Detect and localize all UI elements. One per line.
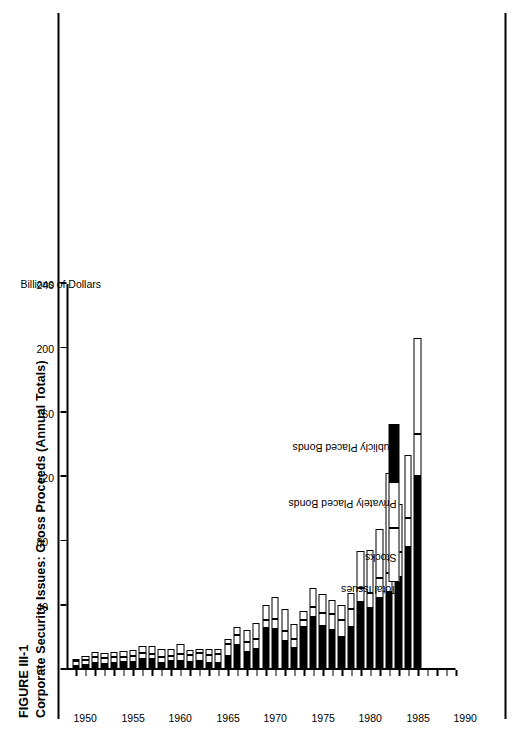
legend-label-public: Publicly Placed Bonds bbox=[292, 442, 396, 454]
chart-legend: Total Issues Stocks Privately Placed Bon… bbox=[300, 322, 450, 582]
year-tick bbox=[370, 670, 372, 676]
bar-row bbox=[252, 623, 259, 669]
bar-segment-private bbox=[214, 654, 221, 663]
bar-segment-stocks bbox=[148, 647, 155, 654]
year-tick bbox=[189, 670, 191, 676]
bar-segment-stocks bbox=[100, 653, 107, 658]
year-tick bbox=[256, 670, 258, 676]
bar-row bbox=[224, 639, 231, 669]
year-tick bbox=[75, 670, 77, 676]
bar-segment-stocks bbox=[110, 652, 117, 657]
bar-segment-public bbox=[195, 661, 202, 669]
bar-segment-stocks bbox=[129, 650, 136, 656]
value-tick bbox=[60, 669, 66, 671]
value-tick-label: 200 bbox=[36, 343, 54, 355]
bar-segment-stocks bbox=[186, 650, 193, 655]
bottom-rule bbox=[504, 13, 506, 719]
bar-segment-stocks bbox=[309, 588, 316, 607]
bar-segment-stocks bbox=[214, 649, 221, 654]
year-tick-label: 1960 bbox=[168, 712, 191, 724]
bar-segment-private bbox=[157, 657, 164, 663]
year-tick bbox=[151, 670, 153, 676]
top-rule bbox=[57, 13, 59, 719]
legend-label-private: Privately Placed Bonds bbox=[288, 498, 396, 510]
year-tick-label: 1980 bbox=[358, 712, 381, 724]
bar-segment-stocks bbox=[328, 600, 335, 615]
bar-segment-public bbox=[337, 637, 344, 669]
year-tick bbox=[341, 670, 343, 676]
bar-segment-stocks bbox=[252, 623, 259, 639]
year-tick-label: 1975 bbox=[311, 712, 334, 724]
bar-segment-public bbox=[328, 630, 335, 669]
bar-segment-public bbox=[356, 602, 363, 669]
bar-segment-public bbox=[290, 648, 297, 669]
year-tick-label: 1985 bbox=[406, 712, 429, 724]
bar-row bbox=[167, 649, 174, 669]
bar-segment-stocks bbox=[195, 649, 202, 654]
bar-row bbox=[186, 650, 193, 669]
year-tick bbox=[360, 670, 362, 676]
bar-segment-stocks bbox=[233, 627, 240, 634]
bar-segment-stocks bbox=[337, 605, 344, 620]
bar-segment-private bbox=[347, 610, 354, 628]
value-tick bbox=[60, 540, 66, 542]
bar-segment-public bbox=[129, 662, 136, 669]
bar-segment-public bbox=[366, 608, 373, 669]
year-tick bbox=[265, 670, 267, 676]
bar-segment-private bbox=[195, 653, 202, 661]
bar-segment-public bbox=[138, 659, 145, 669]
year-tick bbox=[446, 670, 448, 676]
bar-segment-public bbox=[148, 659, 155, 669]
year-tick bbox=[199, 670, 201, 676]
bar-segment-stocks bbox=[81, 656, 88, 660]
year-tick bbox=[170, 670, 172, 676]
bar-segment-private bbox=[205, 655, 212, 664]
value-tick-label: 40 bbox=[36, 601, 48, 613]
bar-row bbox=[290, 624, 297, 669]
bar-row bbox=[214, 649, 221, 669]
bar-row bbox=[299, 611, 306, 669]
year-tick bbox=[389, 670, 391, 676]
year-tick-label: 1955 bbox=[121, 712, 144, 724]
bar-segment-stocks bbox=[72, 659, 79, 662]
bar-segment-private bbox=[337, 620, 344, 637]
bar-segment-public bbox=[347, 627, 354, 669]
bar-segment-private bbox=[290, 639, 297, 648]
bar-segment-private bbox=[281, 631, 288, 641]
value-tick-label: 80 bbox=[36, 536, 48, 548]
year-tick bbox=[427, 670, 429, 676]
bar-segment-stocks bbox=[205, 649, 212, 655]
bar-segment-private bbox=[119, 657, 126, 662]
bar-segment-private bbox=[262, 620, 269, 628]
year-tick bbox=[104, 670, 106, 676]
value-tick-label: 160 bbox=[36, 408, 54, 420]
value-tick bbox=[60, 411, 66, 413]
bar-segment-private bbox=[224, 644, 231, 656]
value-axis-line bbox=[66, 284, 68, 670]
bar-row bbox=[138, 646, 145, 669]
bar-segment-private bbox=[186, 655, 193, 662]
bar-segment-public bbox=[176, 661, 183, 669]
bar-row bbox=[119, 651, 126, 669]
bar-segment-public bbox=[110, 663, 117, 669]
bar-segment-private bbox=[148, 654, 155, 659]
value-axis-title: Billions of Dollars bbox=[20, 278, 101, 290]
year-tick bbox=[227, 670, 229, 676]
year-tick bbox=[294, 670, 296, 676]
bar-row bbox=[328, 600, 335, 669]
year-tick bbox=[275, 670, 277, 676]
bar-segment-public bbox=[186, 662, 193, 669]
bar-segment-public bbox=[271, 629, 278, 669]
bar-segment-stocks bbox=[157, 649, 164, 657]
bar-segment-stocks bbox=[119, 651, 126, 657]
bar-segment-public bbox=[224, 656, 231, 669]
bar-segment-private bbox=[252, 639, 259, 649]
bar-row bbox=[233, 627, 240, 669]
bar-row bbox=[243, 630, 250, 669]
bar-segment-public bbox=[72, 666, 79, 669]
bar-segment-stocks bbox=[224, 639, 231, 644]
bar-segment-private bbox=[91, 657, 98, 663]
bar-row bbox=[347, 593, 354, 669]
year-tick bbox=[332, 670, 334, 676]
bar-segment-public bbox=[157, 663, 164, 669]
